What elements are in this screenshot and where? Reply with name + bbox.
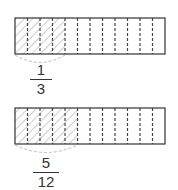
fraction-bar-bottom [15, 108, 165, 153]
denominator: 12 [33, 174, 59, 190]
numerator: 1 [30, 62, 52, 78]
numerator: 5 [33, 155, 59, 171]
fraction-bar-top [15, 18, 165, 63]
denominator: 3 [30, 81, 52, 97]
fraction-label-five-twelfths: 5 12 [33, 155, 59, 190]
fraction-bars-diagram [0, 0, 178, 190]
fraction-label-one-third: 1 3 [30, 62, 52, 97]
